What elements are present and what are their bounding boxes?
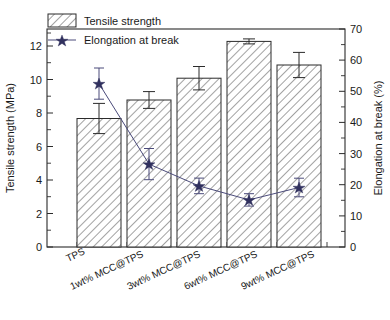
bar-6wt-mcc-tps[interactable]	[227, 41, 271, 247]
legend-label-tensile-strength: Tensile strength	[84, 15, 161, 27]
ytick-label-10: 10	[30, 74, 42, 86]
legend-label-elongation-at-break: Elongation at break	[84, 34, 179, 46]
ytick-label-2: 2	[36, 208, 42, 220]
bar-9wt-mcc-tps[interactable]	[277, 65, 321, 247]
y2tick-label-20: 20	[350, 179, 362, 191]
ytick-label-12: 12	[30, 40, 42, 52]
ytick-label-6: 6	[36, 141, 42, 153]
y2tick-label-10: 10	[350, 210, 362, 222]
right-axis-title: Elongation at break (%)	[372, 81, 384, 196]
tensile-elongation-chart: 0 2 4 6 8 10 12 Tensile strength (MPa)	[0, 0, 390, 320]
left-axis-title: Tensile strength (MPa)	[4, 83, 16, 193]
chart-container: 0 2 4 6 8 10 12 Tensile strength (MPa)	[0, 0, 390, 320]
bar-tps[interactable]	[77, 119, 121, 248]
y2tick-label-0: 0	[350, 241, 356, 253]
legend-swatch-tensile-strength	[48, 14, 76, 27]
ytick-label-4: 4	[36, 174, 42, 186]
y2tick-label-40: 40	[350, 116, 362, 128]
y2tick-label-30: 30	[350, 148, 362, 160]
y2tick-label-60: 60	[350, 54, 362, 66]
ytick-label-8: 8	[36, 107, 42, 119]
ytick-label-0: 0	[36, 241, 42, 253]
y2tick-label-70: 70	[350, 23, 362, 35]
bar-3wt-mcc-tps[interactable]	[177, 78, 221, 247]
y2tick-label-50: 50	[350, 85, 362, 97]
